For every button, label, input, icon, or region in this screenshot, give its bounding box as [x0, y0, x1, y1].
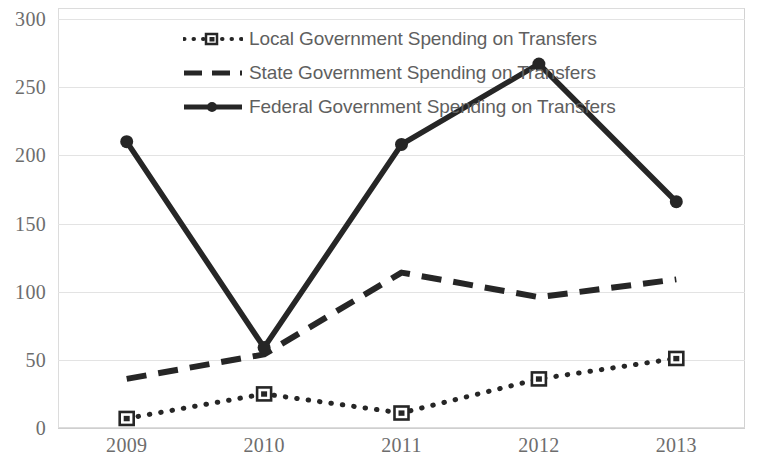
line-chart: 300250200150100500 20092010201120122013 … — [0, 0, 760, 463]
data-point-marker — [120, 135, 133, 148]
series-line — [127, 273, 677, 379]
data-point-marker-core — [673, 356, 679, 361]
legend-label-state: State Government Spending on Transfers — [249, 62, 596, 84]
legend-item-local[interactable]: Local Government Spending on Transfers — [183, 24, 613, 53]
data-point-marker-core — [399, 410, 405, 415]
data-point-marker — [395, 138, 408, 151]
legend-label-federal: Federal Government Spending on Transfers — [249, 96, 616, 118]
legend-label-local: Local Government Spending on Transfers — [249, 28, 597, 50]
legend-item-federal[interactable]: Federal Government Spending on Transfers — [183, 92, 613, 121]
legend-swatch-dotted-square-icon — [183, 31, 243, 47]
legend-item-state[interactable]: State Government Spending on Transfers — [183, 58, 613, 87]
data-point-marker — [670, 195, 683, 208]
data-point-marker-core — [261, 391, 267, 396]
data-point-marker-core — [124, 416, 130, 421]
legend-swatch-solid-circle-icon — [183, 99, 243, 115]
legend-swatch-dashed-icon — [183, 65, 243, 81]
chart-legend: Local Government Spending on Transfers S… — [183, 24, 613, 126]
data-point-marker-core — [536, 376, 542, 381]
series-dashed — [127, 273, 677, 379]
data-point-marker — [258, 341, 271, 354]
